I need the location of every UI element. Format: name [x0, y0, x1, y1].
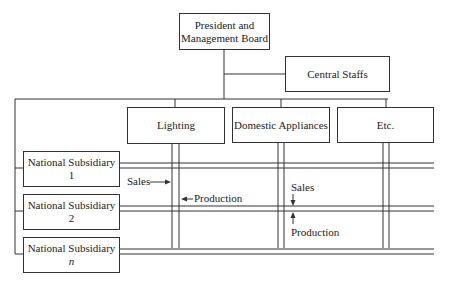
subsidiary-1-box: National Subsidiary 1 [23, 151, 120, 187]
president-line1: President and [195, 19, 255, 32]
division-etc-box: Etc. [337, 107, 434, 143]
subsidiary-index: 1 [69, 169, 75, 182]
lighting-sales-label: Sales [127, 175, 150, 188]
subsidiary-label: National Subsidiary [28, 199, 116, 212]
division-label: Domestic Appliances [234, 119, 328, 132]
subsidiary-2-box: National Subsidiary 2 [23, 194, 120, 230]
central-staffs-label: Central Staffs [307, 68, 368, 81]
division-label: Lighting [157, 119, 195, 132]
subsidiary-n-box: National Subsidiary n [23, 237, 120, 273]
da-sales-label: Sales [291, 181, 314, 194]
division-domestic-appliances-box: Domestic Appliances [232, 107, 330, 143]
division-label: Etc. [377, 119, 394, 132]
subsidiary-index: n [69, 255, 75, 268]
lighting-production-label: Production [194, 192, 242, 205]
da-production-label: Production [291, 226, 339, 239]
subsidiary-index: 2 [69, 212, 75, 225]
central-staffs-box: Central Staffs [285, 56, 390, 92]
division-lighting-box: Lighting [127, 107, 225, 144]
subsidiary-label: National Subsidiary [28, 156, 116, 169]
president-line2: Management Board [181, 32, 268, 45]
president-box: President and Management Board [179, 13, 270, 50]
subsidiary-label: National Subsidiary [28, 242, 116, 255]
